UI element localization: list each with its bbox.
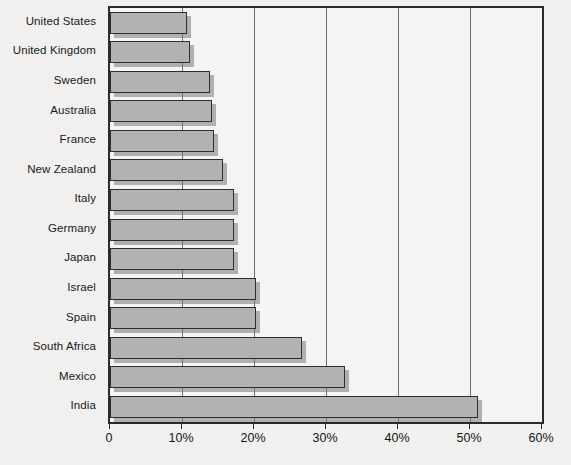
axis-tick-20: [253, 422, 254, 429]
category-label: Australia: [0, 104, 96, 116]
bars-layer: [110, 8, 542, 422]
bar-slot: [110, 392, 542, 422]
axis-tick-label: 10%: [168, 431, 193, 445]
category-label: India: [0, 399, 96, 411]
bar-slot: [110, 8, 542, 38]
bar[interactable]: [110, 41, 190, 63]
category-label: United Kingdom: [0, 44, 96, 56]
bar[interactable]: [110, 12, 187, 34]
bar-chart-figure: United StatesUnited KingdomSwedenAustral…: [0, 0, 571, 465]
plot-area: [108, 6, 544, 424]
axis-tick-40: [397, 422, 398, 429]
bar-slot: [110, 185, 542, 215]
bar-slot: [110, 38, 542, 68]
category-label: United States: [0, 15, 96, 27]
bar-slot: [110, 67, 542, 97]
category-label: Israel: [0, 281, 96, 293]
axis-tick-50: [469, 422, 470, 429]
axis-tick-60: [541, 422, 542, 429]
category-label: South Africa: [0, 340, 96, 352]
bar[interactable]: [110, 189, 234, 211]
bar[interactable]: [110, 71, 210, 93]
axis-tick-label: 0: [106, 431, 113, 445]
bar[interactable]: [110, 337, 302, 359]
category-label: Germany: [0, 222, 96, 234]
axis-tick-10: [181, 422, 182, 429]
bar[interactable]: [110, 366, 345, 388]
bar-slot: [110, 126, 542, 156]
axis-tick-label: 20%: [240, 431, 265, 445]
category-label: Spain: [0, 311, 96, 323]
bar-slot: [110, 363, 542, 393]
bar-slot: [110, 333, 542, 363]
axis-tick-label: 30%: [312, 431, 337, 445]
bar-slot: [110, 304, 542, 334]
bar[interactable]: [110, 307, 256, 329]
category-axis: United StatesUnited KingdomSwedenAustral…: [0, 6, 102, 420]
bar-slot: [110, 156, 542, 186]
category-label: Japan: [0, 251, 96, 263]
category-label: New Zealand: [0, 163, 96, 175]
bar-slot: [110, 245, 542, 275]
axis-tick-label: 60%: [528, 431, 553, 445]
bar[interactable]: [110, 219, 234, 241]
bar-slot: [110, 274, 542, 304]
axis-tick-label: 50%: [456, 431, 481, 445]
axis-tick-30: [325, 422, 326, 429]
bar[interactable]: [110, 278, 256, 300]
axis-tick-0: [109, 422, 110, 429]
category-label: Sweden: [0, 74, 96, 86]
category-label: France: [0, 133, 96, 145]
category-label: Italy: [0, 192, 96, 204]
bar[interactable]: [110, 248, 234, 270]
bar[interactable]: [110, 130, 214, 152]
axis-tick-label: 40%: [384, 431, 409, 445]
bar[interactable]: [110, 396, 478, 418]
value-axis-tick-labels: 010%20%30%40%50%60%: [0, 431, 571, 451]
bar[interactable]: [110, 100, 212, 122]
value-axis-ticks: [108, 422, 542, 430]
bar[interactable]: [110, 159, 223, 181]
bar-slot: [110, 97, 542, 127]
bar-slot: [110, 215, 542, 245]
category-label: Mexico: [0, 370, 96, 382]
